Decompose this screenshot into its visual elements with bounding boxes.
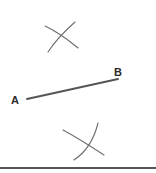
figure-canvas: A B (0, 0, 156, 173)
lower-arc-rising (74, 123, 98, 160)
point-label-a: A (11, 94, 19, 106)
point-label-b: B (114, 66, 122, 78)
geometry-figure: A B (0, 0, 156, 173)
upper-arc-falling (45, 26, 78, 48)
segment-ab (27, 79, 118, 99)
upper-arc-rising (48, 22, 75, 52)
